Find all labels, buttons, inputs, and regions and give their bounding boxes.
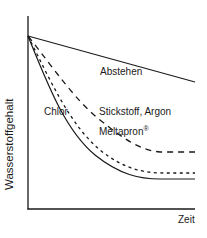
label-meltapron: Meltapron® xyxy=(99,125,149,137)
label-meltapron-text: Meltapron xyxy=(99,126,143,137)
y-axis-label: Wasserstoffgehalt xyxy=(3,99,15,190)
label-abstehen: Abstehen xyxy=(100,67,142,77)
label-chlor: Chlor xyxy=(44,107,68,117)
x-axis-label: Zeit xyxy=(178,215,195,225)
label-stickstoff-argon: Stickstoff, Argon xyxy=(99,107,171,117)
chart-canvas xyxy=(0,0,207,238)
registered-mark: ® xyxy=(143,125,148,132)
